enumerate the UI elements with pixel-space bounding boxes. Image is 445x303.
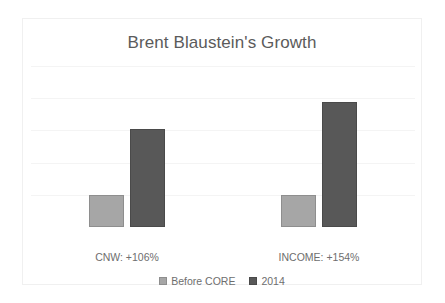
chart-frame: Brent Blaustein's Growth CNW: +106%INCOM… <box>22 18 422 285</box>
category-axis: CNW: +106%INCOME: +154% <box>31 251 415 267</box>
category-label: INCOME: +154% <box>223 251 415 263</box>
bar[interactable] <box>130 129 165 227</box>
legend-label: 2014 <box>261 275 284 287</box>
bar-group <box>281 66 357 227</box>
bar-series-layer <box>31 66 415 227</box>
bar[interactable] <box>281 195 316 227</box>
legend-label: Before CORE <box>171 275 235 287</box>
chart-title: Brent Blaustein's Growth <box>23 33 421 53</box>
legend-swatch-icon <box>159 277 167 285</box>
plot-area <box>31 66 415 227</box>
chart-legend: Before CORE2014 <box>23 275 421 287</box>
bar-group <box>89 66 165 227</box>
legend-swatch-icon <box>249 277 257 285</box>
bar[interactable] <box>89 195 124 227</box>
bar[interactable] <box>322 102 357 227</box>
legend-entry[interactable]: Before CORE <box>159 275 235 287</box>
category-label: CNW: +106% <box>31 251 223 263</box>
legend-entry[interactable]: 2014 <box>249 275 284 287</box>
